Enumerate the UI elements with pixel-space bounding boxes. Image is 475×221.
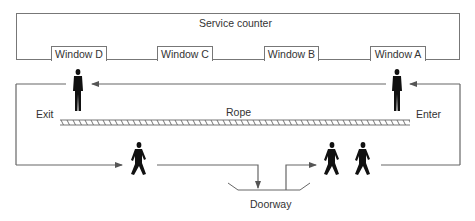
- walking-person-icon: [131, 142, 146, 175]
- walking-person-icon: [355, 142, 370, 175]
- to-doorway-arrow: [157, 165, 258, 188]
- doorway: [228, 183, 310, 190]
- standing-person-icon: [392, 69, 402, 111]
- doorway-label: Doorway: [250, 199, 291, 210]
- standing-person-icon: [73, 69, 83, 111]
- rope-label: Rope: [226, 107, 251, 118]
- walking-person-icon: [324, 142, 339, 175]
- enter-label: Enter: [416, 109, 441, 120]
- exit-label: Exit: [36, 109, 54, 120]
- from-doorway-arrow: [286, 165, 316, 190]
- rope: [60, 120, 410, 125]
- queue-diagram: Service counter Window D Window C Window…: [0, 0, 475, 221]
